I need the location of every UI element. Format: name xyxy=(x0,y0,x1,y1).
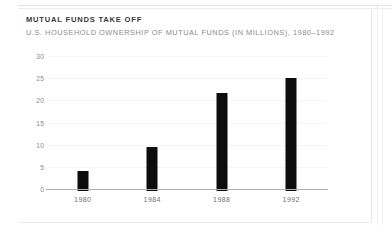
page-rule-right-inner xyxy=(371,8,372,222)
y-axis-tick-label: 20 xyxy=(24,97,44,104)
page-rule-bottom xyxy=(18,222,372,223)
y-axis-tick-labels: 051015202530 xyxy=(26,56,44,189)
gridline-y-20 xyxy=(48,100,326,101)
x-axis-tick-label: 1984 xyxy=(144,196,161,203)
y-axis-tick-label: 0 xyxy=(24,186,44,193)
bar-1980 xyxy=(77,171,88,191)
y-axis-tick-label: 10 xyxy=(24,141,44,148)
page-rule-top-secondary xyxy=(18,8,392,9)
x-axis-tick-label: 1988 xyxy=(213,196,230,203)
y-axis-tick-label: 15 xyxy=(24,119,44,126)
gridline-y-10 xyxy=(48,145,326,146)
y-axis-tick-label: 5 xyxy=(24,163,44,170)
page-rule-right-outer xyxy=(382,3,383,225)
bar-chart: 051015202530 1980198419881992 xyxy=(26,50,326,212)
chart-subtitle: U.S. HOUSEHOLD OWNERSHIP OF MUTUAL FUNDS… xyxy=(26,27,356,39)
x-axis-tick-label: 1992 xyxy=(283,196,300,203)
gridline-y-25 xyxy=(48,78,326,79)
bar-1984 xyxy=(147,147,158,191)
y-axis-tick-label: 25 xyxy=(24,75,44,82)
x-axis-tick-label: 1980 xyxy=(74,196,91,203)
x-axis-baseline xyxy=(46,189,328,190)
y-axis-tick-label: 30 xyxy=(24,53,44,60)
bar-1988 xyxy=(216,93,227,191)
chart-header: MUTUAL FUNDS TAKE OFF U.S. HOUSEHOLD OWN… xyxy=(26,14,356,39)
bar-1992 xyxy=(286,78,297,191)
gridline-y-5 xyxy=(48,167,326,168)
page-rule-top-primary xyxy=(18,5,392,6)
gridline-y-15 xyxy=(48,123,326,124)
chart-title: MUTUAL FUNDS TAKE OFF xyxy=(26,14,356,25)
page-rule-right-middle xyxy=(377,3,378,225)
gridline-y-30 xyxy=(48,56,326,57)
plot-area xyxy=(48,56,326,189)
